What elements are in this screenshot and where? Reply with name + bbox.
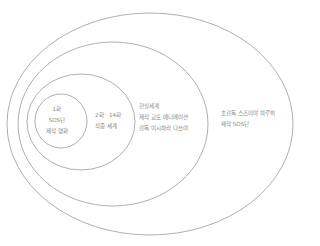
inner-line-3: 제작 영화 bbox=[46, 126, 68, 137]
story-line-2: 작중 세계 bbox=[95, 121, 121, 132]
story-world-label: 2화 · 14화 작중 세계 bbox=[95, 110, 121, 132]
real-line-3: 감독 이시하라 다쓰야 bbox=[139, 123, 188, 134]
outer-line-2: 제작 SOS단 bbox=[221, 119, 275, 130]
outer-line-1: 초감독 스즈미야 하루히 bbox=[221, 108, 275, 119]
inner-label: 1화 SOS단 제작 영화 bbox=[46, 104, 68, 137]
outer-label: 초감독 스즈미야 하루히 제작 SOS단 bbox=[221, 108, 275, 130]
real-line-1: 현실세계 bbox=[139, 101, 188, 112]
inner-line-1: 1화 bbox=[46, 104, 68, 115]
real-world-label: 현실세계 제작 교토 애니메이션 감독 이시하라 다쓰야 bbox=[139, 101, 188, 134]
story-line-1: 2화 · 14화 bbox=[95, 110, 121, 121]
real-line-2: 제작 교토 애니메이션 bbox=[139, 112, 188, 123]
inner-line-2: SOS단 bbox=[46, 115, 68, 126]
